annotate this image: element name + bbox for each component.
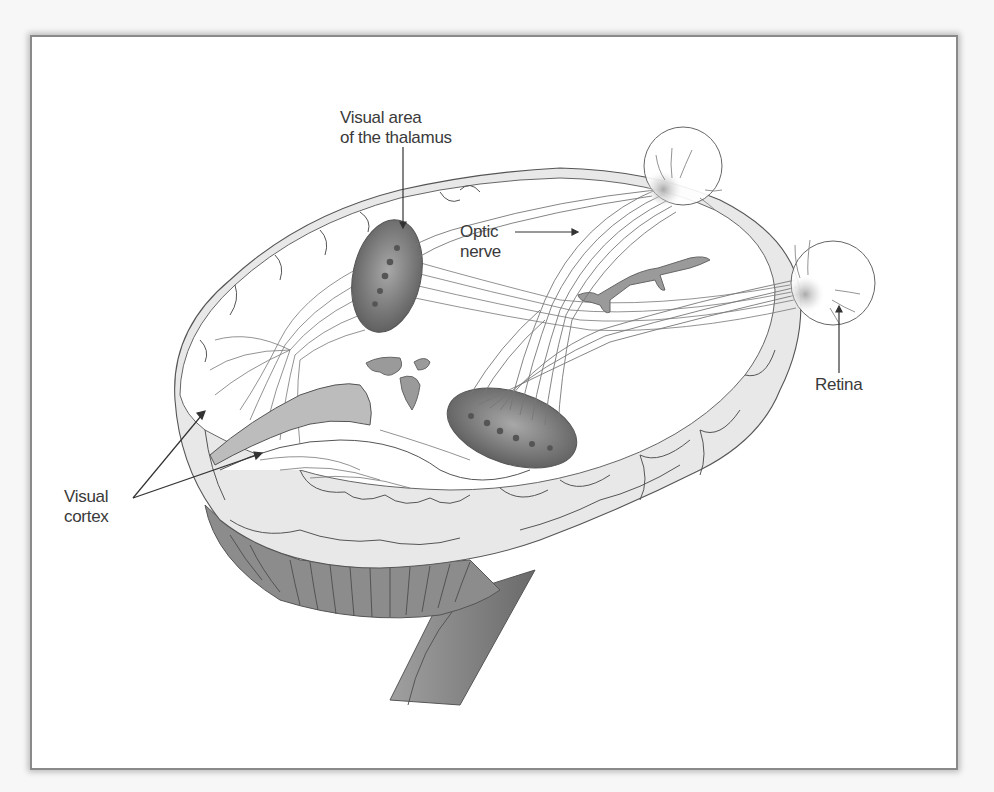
label-cortex-line1: Visual <box>64 487 109 507</box>
label-visual-cortex: Visual cortex <box>64 487 109 527</box>
eye-lower <box>790 240 875 325</box>
label-cortex-line2: cortex <box>64 507 109 527</box>
label-thalamus-line1: Visual area <box>340 108 452 128</box>
visual-pathway-diagram <box>0 0 994 792</box>
label-retina-text: Retina <box>815 375 862 395</box>
label-optic-line1: Optic <box>460 222 501 242</box>
label-optic-line2: nerve <box>460 242 501 262</box>
label-optic-nerve: Optic nerve <box>460 222 501 262</box>
label-thalamus-line2: of the thalamus <box>340 128 452 148</box>
label-retina: Retina <box>815 375 862 395</box>
label-thalamus: Visual area of the thalamus <box>340 108 452 148</box>
